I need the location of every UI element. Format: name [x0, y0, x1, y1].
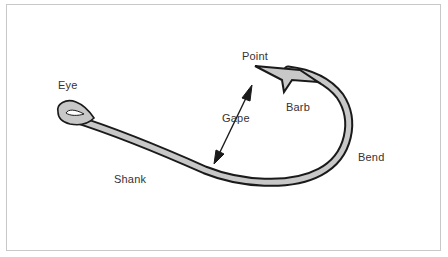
hook-shape — [72, 70, 349, 182]
fish-hook-illustration — [0, 0, 448, 257]
hook-eye — [58, 101, 94, 125]
label-barb: Barb — [286, 102, 310, 113]
label-eye: Eye — [58, 80, 78, 91]
gape-arrow — [214, 85, 252, 164]
label-shank: Shank — [114, 174, 146, 185]
label-point: Point — [242, 51, 268, 62]
label-gape: Gape — [222, 113, 250, 124]
label-bend: Bend — [358, 152, 385, 163]
